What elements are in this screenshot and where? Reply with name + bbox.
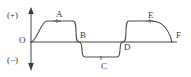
point-label-a: A <box>56 10 63 19</box>
point-label-e: E <box>148 11 154 20</box>
sine-wave-curve <box>31 21 172 57</box>
axis-arrow-up-icon <box>28 7 34 14</box>
wave-diagram: (+) O (−) A B C D E F <box>0 0 191 77</box>
axis-arrow-down-icon <box>28 63 34 71</box>
point-label-f: F <box>176 31 181 40</box>
positive-axis-label: (+) <box>7 11 18 20</box>
wave-diagram-canvas <box>0 0 191 77</box>
origin-label: O <box>19 36 26 45</box>
point-label-c: C <box>101 62 107 71</box>
point-label-b: B <box>80 31 86 40</box>
negative-axis-label: (−) <box>7 56 18 65</box>
point-label-d: D <box>124 43 131 52</box>
